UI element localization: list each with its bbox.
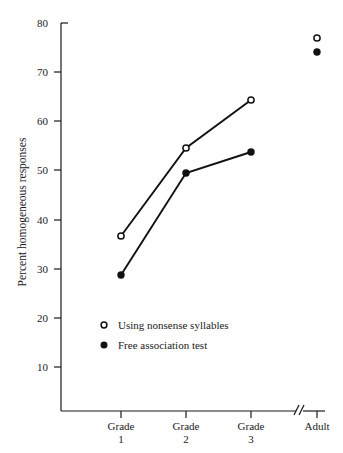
x-tick-label-grade-2-line2: 2 (183, 433, 189, 445)
y-tick-label-30: 30 (37, 263, 49, 275)
y-tick-label-80: 80 (37, 17, 49, 29)
y-tick-label-70: 70 (37, 66, 49, 78)
data-point-free-assoc-grade-3 (248, 149, 254, 155)
legend: Using nonsense syllables Free associatio… (101, 319, 229, 351)
axis-break-slash-1 (294, 405, 299, 415)
y-tick-label-10: 10 (37, 361, 49, 373)
y-tick-label-20: 20 (37, 312, 49, 324)
y-tick-label-60: 60 (37, 115, 49, 127)
data-point-free-assoc-grade-1 (118, 272, 124, 278)
chart-canvas: 80 70 60 50 40 30 20 10 Percent homogene… (0, 0, 343, 453)
data-point-nonsense-grade-1 (118, 233, 124, 239)
y-axis-title: Percent homogeneous responses (16, 137, 29, 286)
legend-marker-filled-circle-icon (101, 342, 107, 348)
data-point-nonsense-grade-3 (248, 97, 254, 103)
y-tick-label-40: 40 (37, 214, 49, 226)
series-line-nonsense-syllables (121, 100, 251, 236)
data-point-nonsense-grade-2 (183, 145, 189, 151)
data-point-free-assoc-grade-2 (183, 170, 189, 176)
data-point-free-assoc-adult (314, 49, 320, 55)
y-tick-label-50: 50 (37, 164, 49, 176)
x-tick-label-adult: Adult (304, 420, 329, 432)
legend-label-nonsense-syllables: Using nonsense syllables (118, 319, 229, 331)
axis-break-slash-2 (299, 405, 304, 415)
legend-label-free-association: Free association test (118, 339, 207, 351)
x-tick-label-grade-1-line1: Grade (108, 420, 135, 432)
x-tick-label-grade-3-line2: 3 (248, 433, 254, 445)
data-point-nonsense-adult (314, 35, 320, 41)
x-tick-label-grade-3-line1: Grade (238, 420, 265, 432)
legend-marker-open-circle-icon (101, 322, 107, 328)
x-tick-label-grade-2-line1: Grade (173, 420, 200, 432)
x-tick-label-grade-1-line2: 1 (118, 433, 124, 445)
chart-figure: 80 70 60 50 40 30 20 10 Percent homogene… (0, 0, 343, 453)
